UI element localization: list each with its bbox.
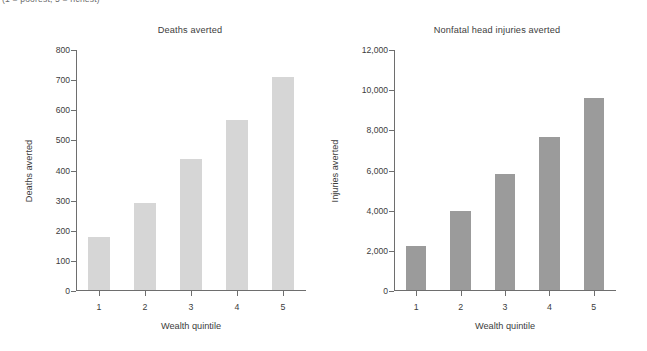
caption-text: (1 = poorest, 5 = richest): [2, 0, 100, 4]
y-axis-tick-label: 200: [34, 226, 70, 236]
x-axis-tick: [461, 291, 462, 296]
bar: [226, 120, 247, 290]
y-axis-tick: [389, 211, 394, 212]
x-axis-tick: [549, 291, 550, 296]
y-axis-tick-label: 6,000: [344, 166, 388, 176]
y-axis-tick-label: 10,000: [344, 85, 388, 95]
chart-panel-deaths-averted: Deaths averted Deaths averted Wealth qui…: [8, 14, 338, 339]
y-axis-tick: [71, 171, 76, 172]
bar: [272, 77, 293, 290]
x-axis-tick: [191, 291, 192, 296]
plot-area-left: Deaths averted Wealth quintile 010020030…: [76, 50, 306, 291]
bar: [134, 203, 155, 290]
x-axis-tick-label: 2: [143, 302, 148, 312]
y-axis-tick: [389, 251, 394, 252]
y-axis-tick-label: 500: [34, 135, 70, 145]
bar: [450, 211, 470, 290]
x-axis-tick: [505, 291, 506, 296]
bar: [539, 137, 559, 290]
x-axis-tick-label: 4: [547, 302, 552, 312]
y-axis-line-right: [394, 50, 395, 291]
x-axis-title-left: Wealth quintile: [76, 321, 306, 331]
y-axis-tick: [389, 90, 394, 91]
chart-title-left: Deaths averted: [8, 25, 338, 35]
x-axis-tick-label: 5: [281, 302, 286, 312]
x-axis-tick-label: 2: [458, 302, 463, 312]
x-axis-tick: [594, 291, 595, 296]
y-axis-title-left: Deaths averted: [24, 139, 34, 201]
y-axis-tick-label: 0: [34, 286, 70, 296]
y-axis-tick-label: 600: [34, 105, 70, 115]
y-axis-title-right: Injuries averted: [330, 139, 340, 202]
x-axis-tick: [283, 291, 284, 296]
chart-panel-nonfatal-head-injuries-averted: Nonfatal head injuries averted Injuries …: [330, 14, 642, 339]
x-axis-tick-label: 3: [189, 302, 194, 312]
chart-title-right: Nonfatal head injuries averted: [330, 25, 642, 35]
y-axis-tick-label: 300: [34, 196, 70, 206]
y-axis-tick-label: 8,000: [344, 125, 388, 135]
x-axis-tick: [237, 291, 238, 296]
bar: [88, 237, 109, 290]
y-axis-tick: [389, 130, 394, 131]
y-axis-tick: [71, 110, 76, 111]
x-axis-tick: [416, 291, 417, 296]
y-axis-tick-label: 2,000: [344, 246, 388, 256]
bar: [180, 159, 201, 290]
y-axis-tick: [71, 261, 76, 262]
y-axis-tick: [71, 140, 76, 141]
x-axis-tick: [99, 291, 100, 296]
caption-strip: (1 = poorest, 5 = richest): [0, 0, 647, 7]
x-axis-tick-label: 1: [414, 302, 419, 312]
y-axis-tick-label: 400: [34, 166, 70, 176]
plot-area-right: Injuries averted Wealth quintile 02,0004…: [394, 50, 616, 291]
bar: [406, 246, 426, 290]
x-axis-tick-label: 4: [235, 302, 240, 312]
x-axis-tick-label: 1: [97, 302, 102, 312]
y-axis-line-left: [76, 50, 77, 291]
y-axis-tick: [389, 291, 394, 292]
y-axis-tick-label: 0: [344, 286, 388, 296]
y-axis-tick-label: 100: [34, 256, 70, 266]
x-axis-tick-label: 3: [503, 302, 508, 312]
y-axis-tick: [71, 201, 76, 202]
bar: [584, 98, 604, 290]
x-axis-title-right: Wealth quintile: [394, 321, 616, 331]
y-axis-tick: [71, 291, 76, 292]
y-axis-tick-label: 4,000: [344, 206, 388, 216]
y-axis-tick: [71, 231, 76, 232]
y-axis-tick: [389, 171, 394, 172]
y-axis-tick-label: 800: [34, 45, 70, 55]
y-axis-tick: [71, 50, 76, 51]
y-axis-tick-label: 12,000: [344, 45, 388, 55]
x-axis-tick-label: 5: [591, 302, 596, 312]
bar: [495, 174, 515, 290]
x-axis-tick: [145, 291, 146, 296]
y-axis-tick: [71, 80, 76, 81]
y-axis-tick-label: 700: [34, 75, 70, 85]
y-axis-tick: [389, 50, 394, 51]
